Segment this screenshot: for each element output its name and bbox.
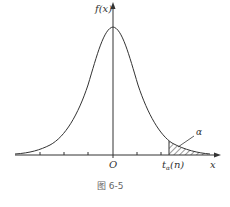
origin-label: O [109,159,117,170]
figure-caption: 图 6-5 [97,181,124,191]
y-axis-label: f(x) [94,3,112,14]
y-axis [111,2,116,158]
critical-value-label: t α (n) [162,159,184,171]
t-distribution-figure: f(x) x O α t α (n) 图 6-5 [0,0,230,207]
x-axis-arrow-icon [214,153,221,158]
alpha-leader-line [178,136,194,147]
tail-area-label: α [196,127,202,137]
x-axis-label: x [210,159,216,170]
critical-value-arg: (n) [170,159,184,170]
